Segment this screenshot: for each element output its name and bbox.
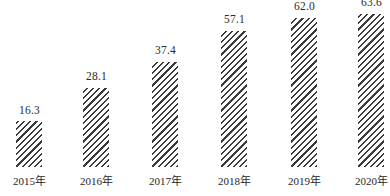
plot-area: 16.3 2015年 28.1 2016年 37.4 2017年 57.1 20… [0, 0, 390, 196]
bar-group: 57.1 2018年 [202, 0, 267, 196]
bar-group: 63.6 2020年 [339, 0, 390, 196]
bar-category-label: 2020年 [339, 175, 390, 188]
bar-value-label: 37.4 [133, 44, 198, 56]
bar-value-label: 28.1 [64, 70, 129, 82]
bar-group: 37.4 2017年 [133, 0, 198, 196]
bar-rect[interactable] [83, 88, 109, 167]
bar-category-label: 2018年 [202, 175, 267, 188]
bar-category-label: 2016年 [64, 175, 129, 188]
bar-category-label: 2019年 [272, 175, 337, 188]
bar-rect[interactable] [221, 31, 247, 167]
bar-chart: 16.3 2015年 28.1 2016年 37.4 2017年 57.1 20… [0, 0, 390, 196]
bar-value-label: 63.6 [339, 0, 390, 8]
bar-value-label: 57.1 [202, 13, 267, 25]
bar-group: 16.3 2015年 [0, 0, 62, 196]
bar-category-label: 2017年 [133, 175, 198, 188]
bar-rect[interactable] [291, 18, 317, 167]
bar-rect[interactable] [358, 14, 384, 167]
bar-value-label: 16.3 [0, 104, 62, 116]
bar-category-label: 2015年 [0, 175, 62, 188]
bar-rect[interactable] [152, 62, 178, 167]
bar-group: 62.0 2019年 [272, 0, 337, 196]
bar-value-label: 62.0 [272, 0, 337, 12]
bar-group: 28.1 2016年 [64, 0, 129, 196]
bar-rect[interactable] [16, 121, 42, 167]
